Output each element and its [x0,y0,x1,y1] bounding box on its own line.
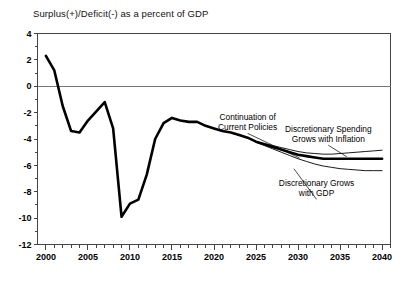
y-axis-group: 420-2-4-6-8-10-12 [18,29,37,250]
x-tick-label: 2010 [120,252,140,262]
chart-plot-area: 420-2-4-6-8-10-12 2000200520102015202020… [0,0,405,282]
x-tick-label: 2020 [204,252,224,262]
annotation-label: Discretionary Spending [285,124,372,134]
x-axis-group: 200020052010201520202025203020352040 [36,34,392,262]
x-tick-label: 2040 [372,252,392,262]
x-tick-label: 2025 [246,252,266,262]
y-tick-label: -6 [23,161,31,171]
x-axis-minor-ticks [46,245,391,250]
y-tick-label: -2 [23,108,31,118]
y-tick-label: -8 [23,187,31,197]
y-tick-label: -12 [18,240,31,250]
annotation-label: Current Policies [218,122,277,132]
y-tick-label: -4 [23,134,31,144]
chart-container: Surplus(+)/Deficit(-) as a percent of GD… [0,0,405,282]
annotation-label: with GDP [298,188,335,198]
y-axis-tick-labels: 420-2-4-6-8-10-12 [18,29,31,250]
annotation-label: Grows with Inflation [292,134,365,144]
x-axis-tick-labels: 200020052010201520202025203020352040 [36,252,392,262]
y-tick-label: -10 [18,213,31,223]
x-tick-label: 2005 [78,252,98,262]
x-tick-label: 2015 [162,252,182,262]
x-tick-label: 2030 [288,252,308,262]
y-tick-label: 0 [26,81,31,91]
x-tick-label: 2000 [36,252,56,262]
y-axis-ticks [34,34,38,245]
y-tick-label: 4 [26,29,31,39]
chart-annotations-group: Continuation ofCurrent PoliciesDiscretio… [218,112,372,199]
y-tick-label: 2 [26,55,31,65]
annotation-leader-line [328,145,346,157]
x-tick-label: 2035 [330,252,350,262]
annotation-label: Discretionary Grows [279,178,354,188]
annotation-label: Continuation of [219,112,276,122]
